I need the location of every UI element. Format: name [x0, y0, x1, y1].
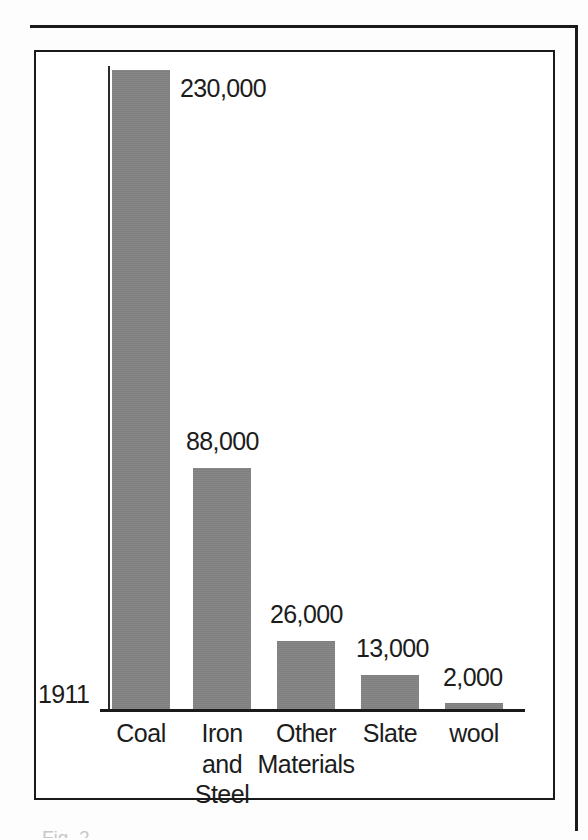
bar-chart-plot: 1911 230,000 88,000 26,000 13,000 2,000 … [0, 0, 588, 840]
figure-page: 1911 230,000 88,000 26,000 13,000 2,000 … [0, 0, 588, 840]
value-label-wool: 2,000 [443, 665, 503, 690]
bar-iron-and-steel[interactable] [193, 468, 251, 709]
bar-wool[interactable] [445, 703, 503, 709]
bar-slate[interactable] [361, 675, 419, 709]
y-axis-line [108, 66, 110, 710]
category-label-slate: Slate [347, 718, 433, 749]
value-label-iron-and-steel: 88,000 [186, 429, 259, 454]
category-label-coal: Coal [98, 718, 184, 749]
value-label-slate: 13,000 [356, 636, 429, 661]
category-label-other-materials: Other Materials [251, 718, 361, 779]
bar-other-materials[interactable] [277, 641, 335, 709]
bar-coal[interactable] [112, 70, 170, 709]
category-label-wool: wool [431, 718, 517, 749]
figure-caption: Fig. 2 [42, 828, 90, 838]
value-label-other-materials: 26,000 [270, 602, 343, 627]
year-label: 1911 [38, 682, 89, 707]
x-axis-baseline [100, 709, 525, 712]
value-label-coal: 230,000 [180, 76, 266, 101]
